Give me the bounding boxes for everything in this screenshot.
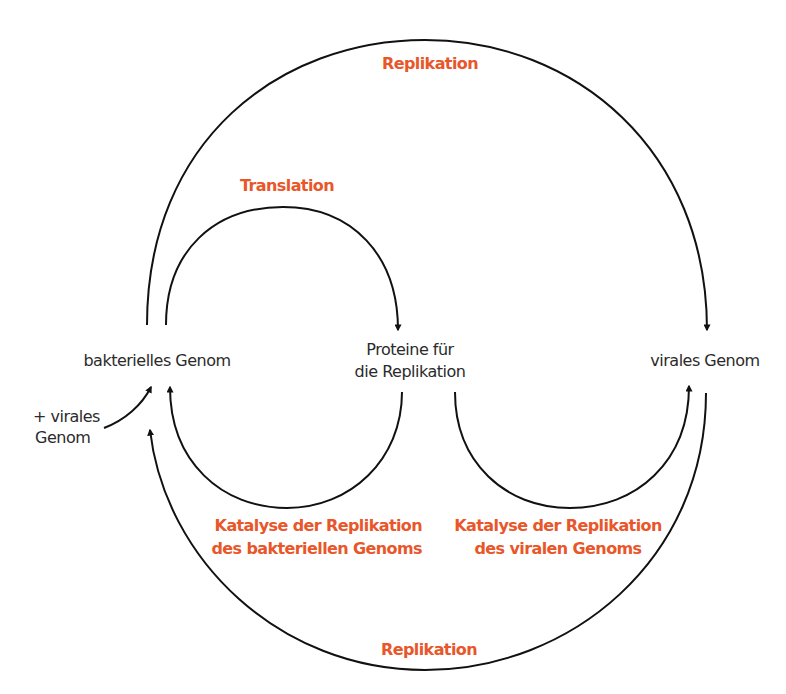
label-catalysis-viral-line1: Katalyse der Replikation [430, 515, 686, 537]
node-bacterial-genome: bakterielles Genom [62, 350, 252, 372]
edge-catalysis-viral [455, 386, 689, 508]
label-translation: Translation [222, 175, 352, 197]
label-catalysis-bacterial-line2: des bakteriellen Genoms [170, 538, 422, 560]
label-catalysis-viral-line2: des viralen Genoms [430, 538, 686, 560]
edge-catalysis-bacterial [170, 387, 402, 508]
node-proteins-line1: Proteine für [340, 339, 480, 361]
node-input-viral-line1: + virales [33, 406, 100, 428]
label-replication-bottom: Replikation [364, 639, 494, 661]
edge-translation [166, 207, 398, 330]
node-proteins-line2: die Replikation [340, 361, 480, 383]
node-input-viral-line2: Genom [35, 427, 90, 449]
node-viral-genome: virales Genom [630, 350, 780, 372]
edge-viral-input [104, 387, 151, 428]
label-replication-top: Replikation [365, 53, 495, 75]
diagram-canvas: Replikation Translation Katalyse der Rep… [0, 0, 786, 694]
label-catalysis-bacterial-line1: Katalyse der Replikation [170, 515, 422, 537]
